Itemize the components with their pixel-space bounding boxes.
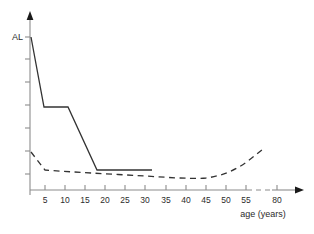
x-axis-tick-label: 40	[181, 195, 191, 205]
series-solid-curve	[31, 37, 152, 170]
x-axis-tick-label: 25	[120, 195, 130, 205]
x-axis-tick-label: 15	[80, 195, 90, 205]
x-axis-arrow-icon	[295, 187, 304, 194]
x-axis-tick-label: 30	[140, 195, 150, 205]
y-axis-label: AL	[12, 32, 23, 42]
x-axis-tick-label: 50	[221, 195, 231, 205]
chart-figure: AL 5 10 15 20 25 30 35 40 45 50 55 80	[0, 0, 314, 234]
series-dashed-curve	[31, 150, 262, 178]
x-axis-tick-label: 45	[201, 195, 211, 205]
chart-plot-area: AL 5 10 15 20 25 30 35 40 45 50 55 80	[0, 0, 314, 234]
x-axis-tick-label: 80	[272, 195, 282, 205]
x-axis-title: age (years)	[240, 209, 286, 219]
x-axis-tick-label: 20	[100, 195, 110, 205]
x-axis-tick-label: 55	[241, 195, 251, 205]
x-axis-tick-label: 5	[43, 195, 48, 205]
x-axis-tick-label: 35	[161, 195, 171, 205]
x-axis-tick-label: 10	[60, 195, 70, 205]
y-axis-arrow-icon	[27, 11, 34, 20]
